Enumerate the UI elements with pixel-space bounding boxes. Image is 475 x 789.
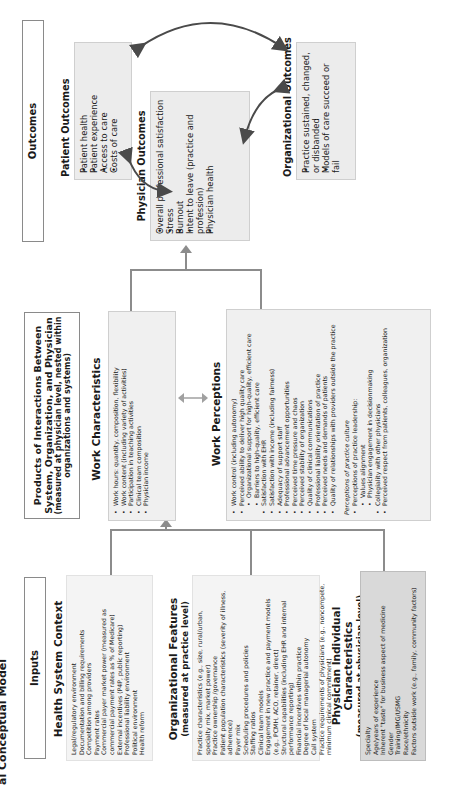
- conceptual-model-diagram: al Conceptual Model Inputs Products of I…: [0, 0, 475, 789]
- curved-arrow-patient-physician-icon: [0, 0, 475, 789]
